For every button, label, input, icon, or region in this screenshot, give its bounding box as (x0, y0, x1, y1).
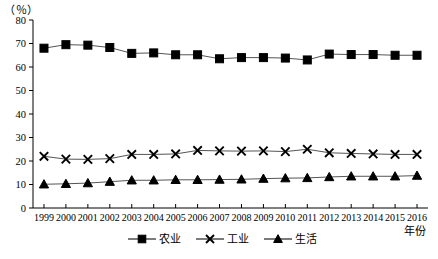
y-axis-tick-label: 40 (16, 109, 27, 120)
y-axis-tick-label: 50 (16, 85, 27, 96)
y-axis-tick-label: 70 (16, 38, 27, 49)
x-axis-title: 年份 (404, 224, 426, 237)
x-axis-tick-label: 2002 (100, 212, 120, 223)
legend-marker-农业 (138, 235, 146, 243)
x-axis-tick-label: 2008 (231, 212, 251, 223)
data-point-农业-2002 (106, 43, 114, 51)
series-line-农业 (44, 45, 417, 60)
x-axis-tick-label: 2003 (122, 212, 142, 223)
data-point-农业-2004 (150, 49, 158, 57)
x-axis-tick-label: 2014 (363, 212, 383, 223)
data-point-农业-2015 (391, 51, 399, 59)
x-axis-tick-label: 2012 (319, 212, 339, 223)
data-point-农业-2012 (325, 50, 333, 58)
legend-item-生活[interactable]: 生活 (264, 232, 317, 245)
legend-label-工业: 工业 (227, 233, 249, 245)
x-axis-tick-label: 2011 (297, 212, 317, 223)
series-line-生活 (44, 176, 417, 185)
data-point-农业-2016 (413, 51, 421, 59)
x-axis-tick-label: 2009 (253, 212, 273, 223)
data-point-农业-2011 (303, 56, 311, 64)
x-axis-tick-label: 2015 (385, 212, 405, 223)
x-axis-tick-label: 2001 (78, 212, 98, 223)
data-point-农业-2008 (237, 54, 245, 62)
y-axis-unit-label: （％） (4, 1, 39, 17)
x-axis-tick-label: 2006 (188, 212, 208, 223)
x-axis-tick-label: 2004 (144, 212, 164, 223)
series-生活 (39, 171, 421, 188)
legend-label-农业: 农业 (159, 232, 181, 245)
x-axis-tick-label: 2016 (407, 212, 427, 223)
data-point-农业-2000 (62, 41, 70, 49)
legend-item-工业[interactable]: 工业 (196, 233, 249, 245)
data-point-农业-2009 (259, 54, 267, 62)
data-point-农业-2005 (172, 51, 180, 59)
data-point-农业-2003 (128, 49, 136, 57)
x-axis-tick-label: 2005 (166, 212, 186, 223)
data-point-农业-2014 (369, 51, 377, 59)
line-chart: 0102030405060708019992000200120022003200… (0, 0, 438, 259)
x-axis-tick-label: 2000 (56, 212, 76, 223)
legend-item-农业[interactable]: 农业 (128, 232, 181, 245)
data-point-农业-2013 (347, 51, 355, 59)
y-axis-tick-label: 0 (21, 203, 26, 214)
x-axis-tick-label: 2007 (210, 212, 230, 223)
x-axis-tick-label: 2013 (341, 212, 361, 223)
series-line-工业 (44, 149, 417, 159)
x-axis-tick-label: 2010 (275, 212, 295, 223)
series-工业 (40, 145, 421, 164)
y-axis-tick-label: 20 (16, 156, 27, 167)
series-农业 (40, 41, 421, 64)
legend-label-生活: 生活 (295, 232, 317, 245)
y-axis-tick-label: 60 (16, 62, 27, 73)
y-axis-tick-label: 30 (16, 132, 27, 143)
data-point-农业-2006 (194, 51, 202, 59)
chart-container: （％） 010203040506070801999200020012002200… (0, 0, 438, 259)
data-point-生活-2016 (412, 171, 421, 179)
data-point-农业-2010 (281, 54, 289, 62)
data-point-农业-2001 (84, 41, 92, 49)
y-axis-tick-label: 10 (16, 179, 27, 190)
data-point-农业-2007 (216, 55, 224, 63)
x-axis-tick-label: 1999 (34, 212, 54, 223)
data-point-农业-1999 (40, 44, 48, 52)
